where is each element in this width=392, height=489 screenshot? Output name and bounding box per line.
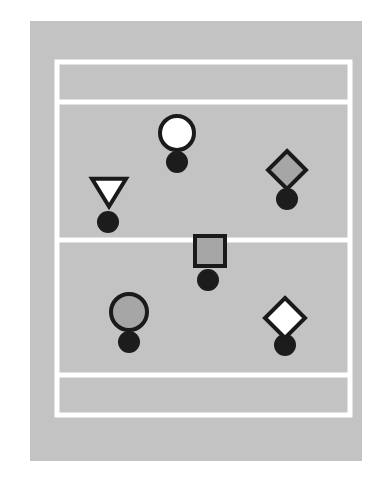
position-dot-icon (197, 269, 219, 291)
position-dot-icon (166, 151, 188, 173)
diagram-canvas (0, 0, 392, 489)
square-marker-icon[interactable] (195, 236, 225, 266)
court-diagram (0, 0, 392, 489)
circle-marker-icon[interactable] (160, 116, 194, 150)
position-dot-icon (118, 331, 140, 353)
position-dot-icon (97, 211, 119, 233)
circle-marker-icon[interactable] (111, 294, 147, 330)
